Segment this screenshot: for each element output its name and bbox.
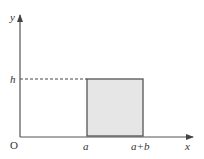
diagram-canvas: y h O a a+b x: [0, 0, 204, 159]
x-tick-label-a: a: [83, 140, 89, 152]
origin-label: O: [10, 139, 18, 151]
shaded-rectangle: [87, 79, 143, 136]
x-axis-label: x: [184, 140, 190, 152]
x-tick-label-a-plus-b: a+b: [131, 140, 150, 152]
y-axis-label: y: [9, 11, 15, 23]
y-tick-label-h: h: [10, 73, 16, 85]
